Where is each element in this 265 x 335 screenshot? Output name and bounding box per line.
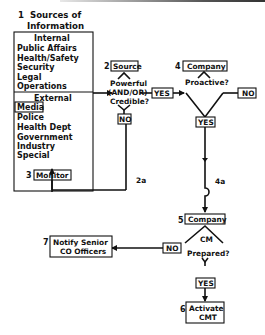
source-item: Legal [17, 73, 42, 82]
source-item: Security [17, 63, 55, 72]
svg-text:CMT: CMT [199, 313, 217, 322]
proactive-no-box: NO [238, 88, 256, 98]
source-item: Operations [17, 82, 67, 91]
svg-text:Powerful: Powerful [110, 79, 147, 88]
company-node-4: 4 Company [175, 61, 227, 71]
svg-text:3: 3 [26, 171, 32, 180]
activate-node: 6 Activate CMT [180, 302, 224, 323]
svg-text:YES: YES [197, 279, 214, 288]
source-item-highlighted: Media [17, 103, 44, 112]
cm-no-box: NO [163, 243, 181, 253]
svg-text:YES: YES [153, 89, 170, 98]
sources-title: 1 Sources of Information [18, 10, 84, 31]
svg-text:Source: Source [113, 62, 142, 71]
notify-node: 7 Notify Senior CO Officers [43, 236, 112, 257]
svg-text:NO: NO [119, 115, 131, 124]
svg-text:Company: Company [188, 215, 227, 224]
svg-text:2: 2 [104, 62, 110, 71]
svg-text:Prepared?: Prepared? [187, 249, 230, 258]
svg-text:CM: CM [200, 235, 213, 244]
internal-header: Internal [34, 34, 70, 43]
svg-text:1: 1 [18, 10, 24, 20]
svg-text:NO: NO [166, 244, 178, 253]
cm-yes-box: YES [196, 278, 215, 288]
svg-text:4: 4 [175, 62, 181, 71]
cm-diamond: CM Prepared? [185, 226, 230, 266]
svg-text:Company: Company [187, 62, 226, 71]
svg-text:6: 6 [180, 305, 186, 314]
svg-text:Information: Information [27, 21, 84, 31]
source-yes-box: YES [152, 88, 173, 98]
svg-text:NO: NO [242, 89, 254, 98]
proactive-yes-box: YES [196, 117, 215, 127]
svg-text:Proactive?: Proactive? [185, 78, 229, 87]
source-item: Police [17, 113, 45, 122]
sources-box: Internal Public Affairs Health/Safety Se… [14, 32, 93, 191]
svg-text:Activate: Activate [189, 304, 224, 313]
source-node: 2 Source [104, 61, 142, 71]
svg-text:CO Officers: CO Officers [60, 247, 107, 256]
svg-text:Sources of: Sources of [30, 10, 81, 20]
source-item: Government [17, 133, 73, 142]
source-no-box: NO [118, 114, 131, 124]
source-item: Industry [17, 142, 56, 151]
connector-4a: 4a [215, 177, 225, 186]
source-item: Health/Safety [17, 54, 80, 63]
source-item: Health Dept [17, 123, 71, 132]
company-node-5: 5 Company [178, 214, 227, 225]
source-item: Special [17, 151, 50, 160]
connector-2a: 2a [136, 176, 146, 185]
proactive-diamond: Proactive? [185, 72, 238, 117]
svg-text:YES: YES [197, 118, 214, 127]
svg-text:5: 5 [178, 216, 184, 225]
svg-text:Notify Senior: Notify Senior [53, 238, 108, 247]
source-item: Public Affairs [17, 44, 77, 53]
svg-text:7: 7 [43, 238, 49, 247]
svg-text:Credible?: Credible? [110, 97, 149, 106]
crisis-flowchart: 1 Sources of Information Internal Public… [0, 0, 265, 335]
